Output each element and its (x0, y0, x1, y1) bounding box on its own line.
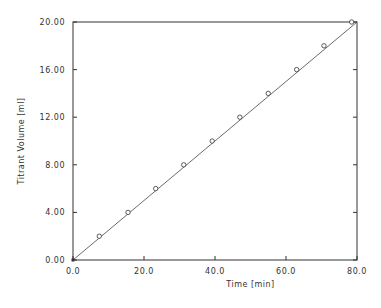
data-point (322, 44, 326, 48)
data-point-origin (72, 259, 75, 262)
y-tick-label: 20.00 (40, 18, 65, 27)
y-tick-label: 0.00 (45, 256, 65, 265)
data-point (210, 139, 214, 143)
data-point (238, 115, 242, 119)
x-tick-label: 80.0 (347, 267, 367, 276)
y-tick-label: 4.00 (45, 208, 65, 217)
data-point (182, 163, 186, 167)
y-tick-label: 16.00 (40, 66, 65, 75)
x-tick-label: 0.0 (66, 267, 80, 276)
x-tick-label: 20.0 (134, 267, 154, 276)
x-tick-label: 60.0 (276, 267, 296, 276)
plot-area: 0.020.040.060.080.00.004.008.0012.0016.0… (0, 0, 381, 308)
y-axis-label: Titrant Volume [ml] (17, 98, 26, 186)
data-point (266, 91, 270, 95)
x-axis-label: Time [min] (225, 280, 274, 289)
data-point (349, 20, 353, 24)
fit-line (73, 22, 357, 260)
x-tick-label: 40.0 (205, 267, 225, 276)
chart: 0.020.040.060.080.00.004.008.0012.0016.0… (0, 0, 381, 308)
y-tick-label: 8.00 (45, 161, 65, 170)
data-point (97, 234, 101, 238)
y-tick-label: 12.00 (40, 113, 65, 122)
data-point (294, 67, 298, 71)
data-point (154, 186, 158, 190)
data-point (126, 210, 130, 214)
